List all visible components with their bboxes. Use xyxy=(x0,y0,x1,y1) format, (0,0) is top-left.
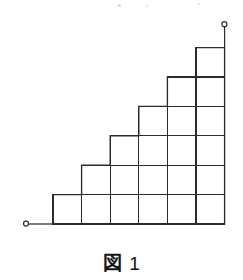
cell-c5-r2 xyxy=(167,165,196,194)
cell-c6-r2 xyxy=(196,165,225,194)
staircase-diagram xyxy=(0,0,243,246)
cell-c5-r4 xyxy=(167,106,196,135)
figure-root: 図 1 xyxy=(0,0,243,280)
figure-caption-number: 1 xyxy=(129,254,140,273)
cell-c4-r4 xyxy=(139,106,168,135)
cell-c3-r2 xyxy=(110,165,139,194)
cell-c6-r1 xyxy=(196,195,225,224)
cell-c4-r2 xyxy=(139,165,168,194)
cell-c4-r1 xyxy=(139,195,168,224)
cell-c6-r3 xyxy=(196,136,225,165)
cell-c2-r2 xyxy=(82,165,111,194)
cell-c3-r1 xyxy=(110,195,139,224)
cell-c5-r5 xyxy=(167,77,196,106)
cell-c6-r5 xyxy=(196,77,225,106)
cell-c5-r1 xyxy=(167,195,196,224)
cell-c1-r1 xyxy=(53,195,82,224)
cell-c3-r3 xyxy=(110,136,139,165)
cell-c6-r4 xyxy=(196,106,225,135)
top-right-endpoint-marker xyxy=(222,22,227,27)
figure-caption-kanji: 図 xyxy=(103,254,122,273)
baseline-left-endpoint-marker xyxy=(24,221,29,226)
cell-c6-r6 xyxy=(196,48,225,77)
cell-c5-r3 xyxy=(167,136,196,165)
cell-c4-r3 xyxy=(139,136,168,165)
figure-caption: 図 1 xyxy=(0,246,243,280)
cell-c2-r1 xyxy=(82,195,111,224)
